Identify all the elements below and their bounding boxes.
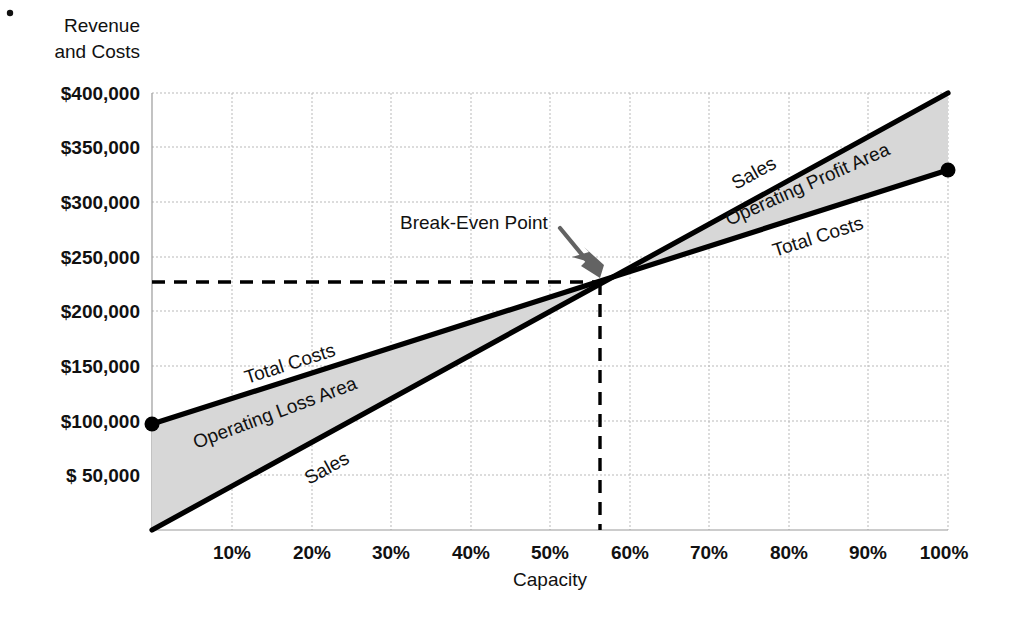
y-tick-label-150000: $150,000 [61,356,140,377]
y-tick-label-100000: $100,000 [61,411,140,432]
x-tick-label-80: 80% [770,542,808,563]
y-axis-title-line1: Revenue [64,15,140,36]
x-axis-title: Capacity [513,569,587,590]
x-tick-label-90: 90% [849,542,887,563]
x-tick-label-60: 60% [611,542,649,563]
x-tick-label-50: 50% [531,542,569,563]
y-tick-label-50000: $ 50,000 [66,465,140,486]
endpoint-marker-total-costs-left [145,417,160,432]
y-tick-label-250000: $250,000 [61,247,140,268]
x-tick-label-40: 40% [452,542,490,563]
endpoint-marker-total-costs-right [941,163,956,178]
x-tick-label-30: 30% [372,542,410,563]
y-axis-title-line2: and Costs [54,41,140,62]
x-tick-label-70: 70% [690,542,728,563]
y-tick-label-200000: $200,000 [61,301,140,322]
bullet-dot-icon [7,10,13,16]
break-even-chart: Revenue and Costs [0,0,1015,619]
break-even-point-label: Break-Even Point [400,212,549,233]
chart-svg: Revenue and Costs [0,0,1015,619]
x-tick-label-10: 10% [213,542,251,563]
y-tick-label-350000: $350,000 [61,137,140,158]
y-tick-label-300000: $300,000 [61,192,140,213]
x-tick-label-100: 100% [920,542,969,563]
x-tick-label-20: 20% [293,542,331,563]
y-tick-label-400000: $400,000 [61,83,140,104]
